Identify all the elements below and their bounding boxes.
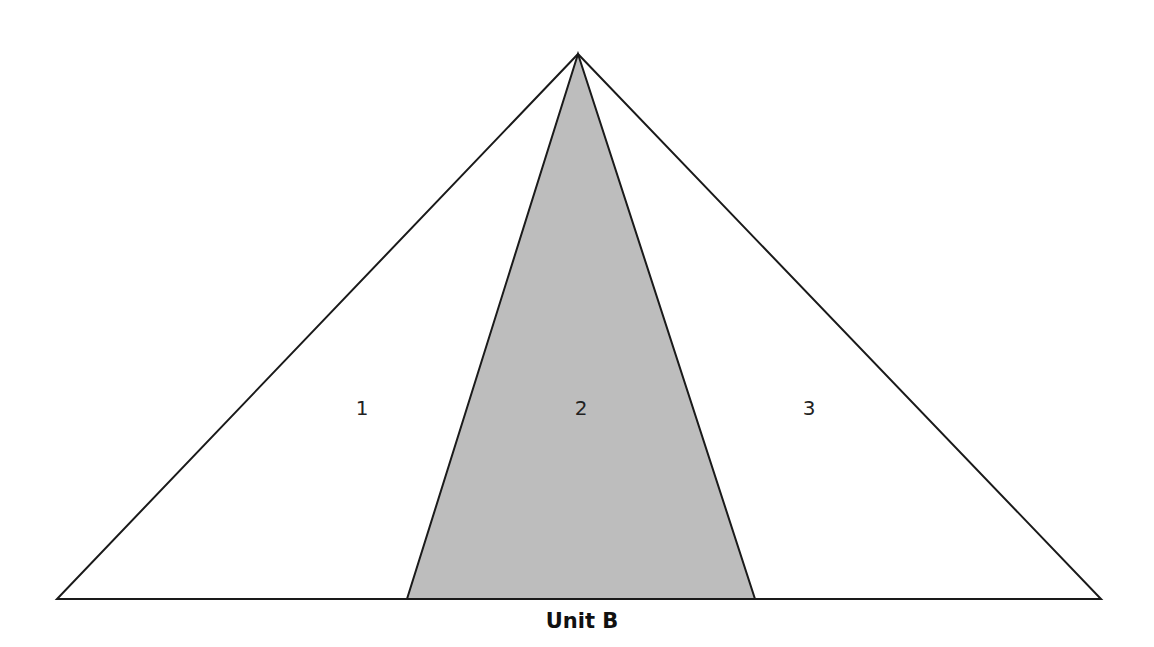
diagram-caption: Unit B [546, 609, 619, 633]
unit-b-triangle-diagram: 1 2 3 Unit B [0, 0, 1154, 647]
region-label-1: 1 [356, 396, 369, 420]
region-label-3: 3 [803, 396, 816, 420]
region-label-2: 2 [575, 396, 588, 420]
